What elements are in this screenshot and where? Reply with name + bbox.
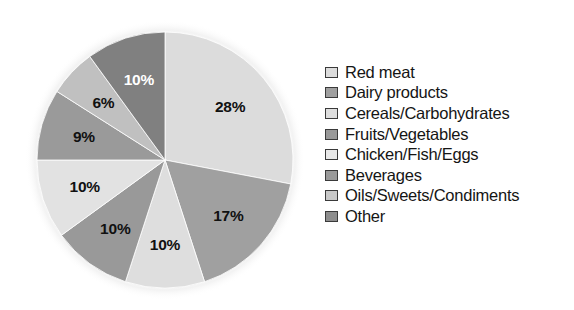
legend-swatch-icon bbox=[325, 190, 338, 201]
legend-item-label: Dairy products bbox=[345, 83, 448, 102]
legend-item-label: Oils/Sweets/Condiments bbox=[345, 186, 519, 205]
pie-slice-value-label: 6% bbox=[92, 94, 114, 111]
pie-slice-value-label: 10% bbox=[124, 71, 155, 88]
legend-item[interactable]: Beverages bbox=[325, 165, 571, 186]
legend-item-label: Red meat bbox=[345, 63, 415, 82]
legend-swatch-icon bbox=[325, 129, 338, 140]
pie-slice-value-label: 10% bbox=[69, 178, 100, 195]
legend-item-label: Cereals/Carbohydrates bbox=[345, 104, 509, 123]
legend-item[interactable]: Other bbox=[325, 206, 571, 227]
legend-item[interactable]: Red meat bbox=[325, 62, 571, 83]
legend-swatch-icon bbox=[325, 149, 338, 160]
legend-swatch-icon bbox=[325, 170, 338, 181]
legend-item[interactable]: Fruits/Vegetables bbox=[325, 124, 571, 145]
pie-chart: 28%17%10%10%10%9%6%10% bbox=[0, 0, 320, 310]
legend-item-label: Chicken/Fish/Eggs bbox=[345, 145, 478, 164]
chart-page: 28%17%10%10%10%9%6%10% Red meatDairy pro… bbox=[0, 0, 574, 310]
legend-item[interactable]: Chicken/Fish/Eggs bbox=[325, 144, 571, 165]
pie-slice-value-label: 10% bbox=[100, 220, 131, 237]
legend-item[interactable]: Oils/Sweets/Condiments bbox=[325, 186, 571, 207]
pie-slice-value-label: 28% bbox=[215, 98, 246, 115]
legend-swatch-icon bbox=[325, 211, 338, 222]
chart-legend: Red meatDairy productsCereals/Carbohydra… bbox=[325, 62, 571, 227]
legend-swatch-icon bbox=[325, 108, 338, 119]
legend-swatch-icon bbox=[325, 87, 338, 98]
legend-swatch-icon bbox=[325, 67, 338, 78]
pie-slice-value-label: 9% bbox=[73, 128, 95, 145]
legend-item-label: Other bbox=[345, 207, 385, 226]
legend-item[interactable]: Cereals/Carbohydrates bbox=[325, 103, 571, 124]
pie-slice-value-label: 17% bbox=[213, 207, 244, 224]
pie-slice-value-label: 10% bbox=[150, 236, 181, 253]
legend-item-label: Beverages bbox=[345, 166, 422, 185]
pie-chart-svg: 28%17%10%10%10%9%6%10% bbox=[0, 0, 320, 310]
legend-item[interactable]: Dairy products bbox=[325, 83, 571, 104]
legend-item-label: Fruits/Vegetables bbox=[345, 125, 468, 144]
